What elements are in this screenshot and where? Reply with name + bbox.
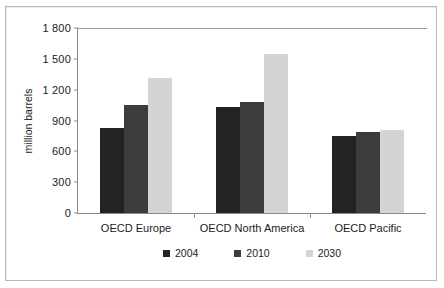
x-tick-label-oecd-pacific: OECD Pacific <box>310 222 426 234</box>
legend-label: 2030 <box>318 247 341 259</box>
bar-group-oecd-north-america: OECD North America <box>194 28 310 213</box>
bar-2030[interactable] <box>380 130 404 213</box>
y-tick-label: 300 <box>52 176 71 188</box>
bar-2010[interactable] <box>124 105 148 213</box>
bar-group-oecd-europe: OECD Europe <box>78 28 194 213</box>
y-tick-600: 600 <box>52 145 78 157</box>
bar-2004[interactable] <box>216 107 240 213</box>
plot-area: 1 800 1 500 1 200 900 600 300 0 <box>77 28 426 214</box>
legend-label: 2010 <box>246 247 269 259</box>
y-tick-0: 0 <box>65 207 78 219</box>
y-tick-1800: 1 800 <box>42 22 78 34</box>
y-axis-title: million barrels <box>20 28 36 214</box>
y-tick-label: 600 <box>52 145 71 157</box>
y-tick-label: 1 200 <box>42 84 71 96</box>
legend-item-2010[interactable]: 2010 <box>234 247 269 259</box>
bar-group-oecd-pacific: OECD Pacific <box>310 28 426 213</box>
bar-2004[interactable] <box>100 128 124 213</box>
y-tick-label: 1 500 <box>42 53 71 65</box>
y-tick-1500: 1 500 <box>42 53 78 65</box>
x-tick-label-oecd-europe: OECD Europe <box>78 222 194 234</box>
y-tick-1200: 1 200 <box>42 84 78 96</box>
bar-2030[interactable] <box>264 54 288 213</box>
y-tick-label: 900 <box>52 115 71 127</box>
chart-figure: million barrels 1 800 1 500 1 200 900 60… <box>5 6 437 281</box>
bar-2010[interactable] <box>356 132 380 213</box>
bar-2010[interactable] <box>240 102 264 214</box>
x-tick-label-oecd-north-america: OECD North America <box>194 222 310 234</box>
bar-2004[interactable] <box>332 136 356 213</box>
legend-item-2030[interactable]: 2030 <box>306 247 341 259</box>
bar-groups: OECD Europe OECD North America OECD Paci… <box>78 28 426 213</box>
legend-swatch-icon <box>234 250 241 257</box>
legend-label: 2004 <box>175 247 198 259</box>
legend-swatch-icon <box>306 250 313 257</box>
legend-item-2004[interactable]: 2004 <box>163 247 198 259</box>
y-tick-label: 1 800 <box>42 22 71 34</box>
y-tick-300: 300 <box>52 176 78 188</box>
bar-2030[interactable] <box>148 78 172 213</box>
chart-legend: 2004 2010 2030 <box>77 247 427 259</box>
legend-swatch-icon <box>163 250 170 257</box>
y-tick-label: 0 <box>65 207 71 219</box>
y-tick-900: 900 <box>52 115 78 127</box>
